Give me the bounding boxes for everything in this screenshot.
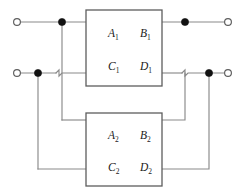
junction-output-bottom-dot[interactable]	[205, 69, 212, 76]
wire-box2-top-right	[162, 73, 185, 120]
terminal-input-top[interactable]	[14, 19, 21, 26]
terminal-output-bottom[interactable]	[225, 70, 232, 77]
junction-input-bottom-dot[interactable]	[34, 69, 41, 76]
junction-input-top-dot[interactable]	[58, 18, 65, 25]
circuit-diagram-canvas: A1 B1 C1 D1 A2 B2 C2 D2	[0, 0, 246, 195]
circuit-schematic-svg: A1 B1 C1 D1 A2 B2 C2 D2	[0, 0, 246, 195]
wire-crossing-hop-right	[182, 70, 225, 76]
junction-output-top-dot[interactable]	[181, 18, 188, 25]
network-block-1[interactable]: A1 B1 C1 D1	[86, 10, 162, 86]
wire-crossing-hop-left	[56, 70, 86, 76]
network-block-2[interactable]: A2 B2 C2 D2	[86, 113, 162, 186]
terminal-output-top[interactable]	[225, 19, 232, 26]
terminal-input-bottom[interactable]	[14, 70, 21, 77]
